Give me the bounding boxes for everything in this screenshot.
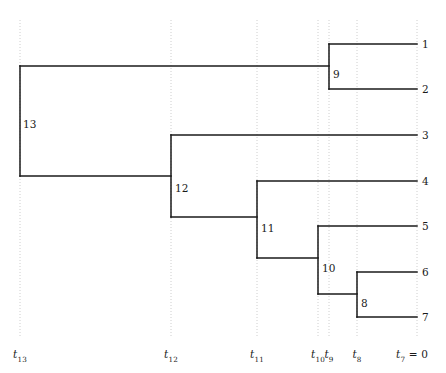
axis-tick-label-t12: t12	[164, 348, 178, 360]
tree-drawing-canvas	[0, 0, 446, 373]
node-label-12: 12	[175, 182, 188, 194]
phylogenetic-tree-figure: 1312111098 1234567 t13t12t11t10t9t8t7 = …	[0, 0, 446, 373]
tip-label-6: 6	[422, 266, 429, 278]
axis-tick-label-t13: t13	[13, 348, 27, 360]
axis-tick-label-t11: t11	[250, 348, 264, 360]
tip-label-1: 1	[422, 38, 429, 50]
tip-label-7: 7	[422, 311, 429, 323]
axis-tick-label-t10: t10	[311, 348, 325, 360]
tip-label-5: 5	[422, 220, 429, 232]
node-label-8: 8	[361, 297, 368, 309]
axis-tick-label-t9: t9	[324, 348, 333, 360]
axis-tick-label-t8: t8	[352, 348, 361, 360]
tip-label-3: 3	[422, 129, 429, 141]
tip-label-4: 4	[422, 175, 429, 187]
axis-tick-label-t7: t7 = 0	[396, 348, 428, 360]
tip-label-2: 2	[422, 83, 429, 95]
node-label-10: 10	[322, 262, 335, 274]
node-label-13: 13	[23, 118, 36, 130]
tree-branches-group	[20, 44, 417, 317]
node-label-11: 11	[261, 222, 274, 234]
node-label-9: 9	[333, 68, 340, 80]
